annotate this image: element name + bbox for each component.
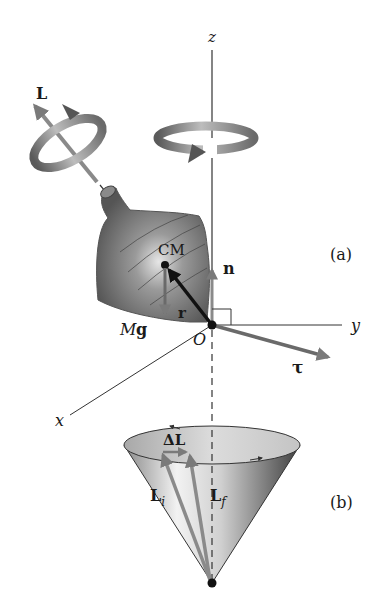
panel-a-label: (a) <box>330 245 352 264</box>
delta-L-label: ΔL <box>163 431 186 449</box>
panel-b-label: (b) <box>330 493 353 512</box>
normal-force-label: n <box>223 259 235 278</box>
spinning-top-precession-diagram: z L CM M g r n y x τ <box>0 0 384 599</box>
angular-momentum-label: L <box>36 84 47 103</box>
weight-label-M: M <box>119 320 137 339</box>
center-of-mass-label: CM <box>158 241 185 259</box>
origin-point <box>208 321 217 330</box>
initial-L-main: L <box>150 486 161 505</box>
spin-rotation-arrow-icon <box>26 104 110 178</box>
center-of-mass-dot <box>161 261 169 269</box>
torque-label: τ <box>292 357 303 377</box>
torque-vector-tau <box>212 325 328 357</box>
y-axis-label: y <box>350 316 361 335</box>
z-axis-label: z <box>207 28 216 46</box>
x-axis-label: x <box>55 411 64 430</box>
origin-label: O <box>193 330 206 349</box>
weight-label-g: g <box>136 320 147 339</box>
final-L-main: L <box>210 486 221 505</box>
position-label: r <box>178 304 187 322</box>
initial-L-subscript: i <box>161 495 165 509</box>
cone-apex-point <box>208 579 217 588</box>
precession-rotation-arrow-icon <box>158 126 254 163</box>
